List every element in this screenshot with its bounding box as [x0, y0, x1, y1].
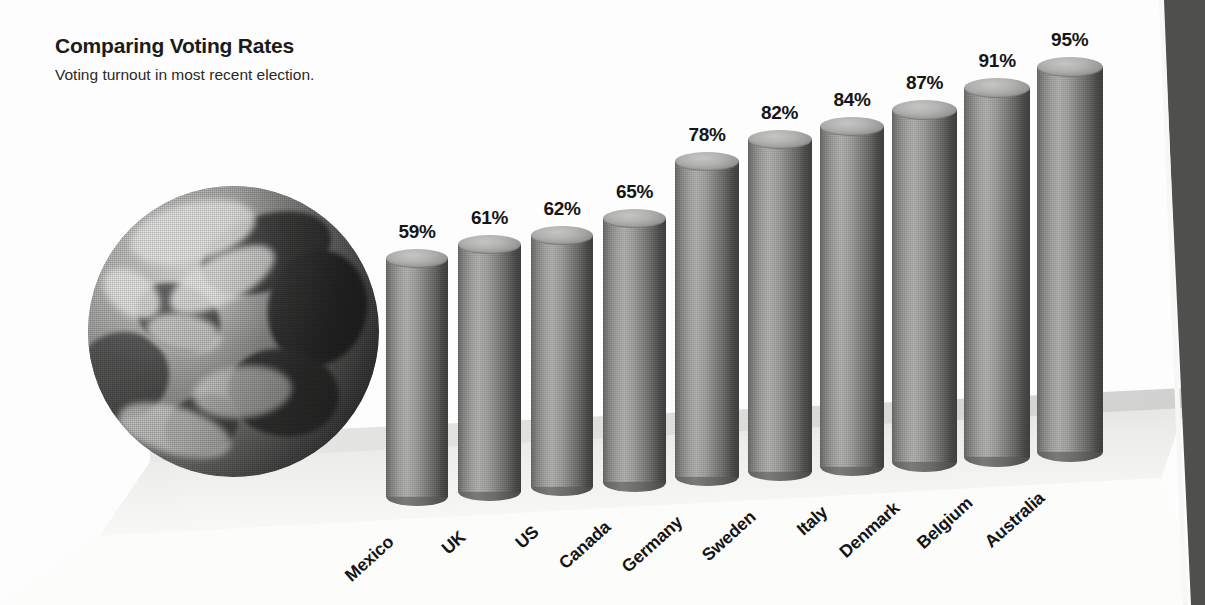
bar-australia[interactable] — [1037, 67, 1103, 452]
bar-series: 59%Mexico61%UK62%US65%Canada78%Germany82… — [0, 0, 1205, 605]
bar-body — [748, 140, 812, 472]
bar-category-label: Mexico — [341, 532, 398, 587]
bar-category-label: US — [511, 522, 543, 554]
bar-body — [820, 127, 885, 467]
bar-body — [531, 236, 594, 487]
bar-category-label: Canada — [555, 517, 615, 574]
bar-shadow — [0, 81, 67, 97]
bar-body — [458, 245, 520, 492]
bar-value-label: 87% — [880, 72, 969, 94]
bar-category-label: Sweden — [697, 507, 759, 566]
bar-value-label: 91% — [952, 50, 1042, 72]
bar-germany[interactable] — [675, 161, 739, 477]
bar-category-label: UK — [438, 527, 471, 559]
bar-shadow — [0, 0, 65, 16]
chart-canvas: Comparing Voting Rates Voting turnout in… — [0, 0, 1205, 605]
bar-top-ellipse — [892, 100, 957, 120]
bar-shadow — [0, 48, 67, 64]
bar-category-label: Belgium — [912, 493, 976, 554]
bar-category-label: Italy — [793, 502, 832, 540]
bar-top-ellipse — [386, 249, 448, 268]
bar-mexico[interactable] — [386, 258, 448, 497]
bar-body — [386, 258, 448, 497]
bar-uk[interactable] — [458, 245, 520, 492]
bar-body — [1037, 67, 1103, 452]
bar-sweden[interactable] — [748, 140, 812, 472]
bar-value-label: 95% — [1025, 29, 1115, 51]
bar-belgium[interactable] — [964, 88, 1030, 457]
bar-value-label: 78% — [663, 124, 751, 146]
bar-value-label: 65% — [591, 181, 678, 203]
bar-shadow — [0, 130, 69, 147]
bar-shadow — [0, 32, 66, 48]
bar-shadow — [0, 97, 68, 113]
bar-shadow — [0, 147, 69, 164]
bar-body — [964, 88, 1030, 457]
bar-category-label: Australia — [981, 488, 1049, 553]
bar-shadow — [0, 65, 67, 81]
bar-shadow — [0, 16, 66, 32]
bar-body — [675, 161, 739, 477]
bar-top-ellipse — [675, 152, 739, 171]
bar-us[interactable] — [531, 236, 594, 487]
bar-category-label: Germany — [618, 512, 687, 577]
bar-category-label: Denmark — [836, 498, 905, 563]
bar-canada[interactable] — [603, 219, 666, 482]
bar-denmark[interactable] — [892, 110, 957, 462]
bar-body — [603, 219, 666, 482]
bar-shadow — [0, 113, 68, 130]
bar-body — [892, 110, 957, 462]
bar-italy[interactable] — [820, 127, 885, 467]
